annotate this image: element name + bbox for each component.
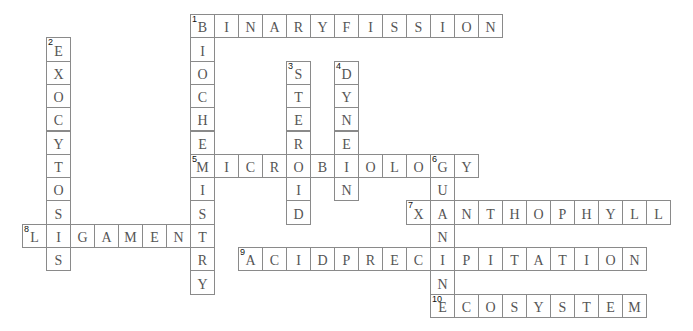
crossword-cell[interactable]: Y bbox=[526, 294, 551, 318]
crossword-cell[interactable]: I bbox=[430, 247, 455, 271]
crossword-cell[interactable]: Y bbox=[190, 270, 215, 294]
crossword-cell[interactable]: E10 bbox=[430, 294, 455, 318]
crossword-cell[interactable]: R bbox=[190, 247, 215, 271]
crossword-cell[interactable]: S bbox=[190, 200, 215, 224]
crossword-cell[interactable]: A9 bbox=[238, 247, 263, 271]
crossword-cell[interactable]: O bbox=[286, 154, 311, 178]
crossword-cell[interactable]: S bbox=[502, 294, 527, 318]
crossword-cell[interactable]: O bbox=[478, 294, 503, 318]
crossword-cell[interactable]: N bbox=[478, 14, 503, 38]
crossword-cell[interactable]: N bbox=[334, 107, 359, 131]
crossword-cell[interactable]: C bbox=[262, 247, 287, 271]
crossword-cell[interactable]: M5 bbox=[190, 154, 215, 178]
crossword-cell[interactable]: E bbox=[142, 224, 167, 248]
crossword-cell[interactable]: E bbox=[382, 247, 407, 271]
crossword-cell[interactable]: C bbox=[238, 154, 263, 178]
crossword-cell[interactable]: I bbox=[334, 154, 359, 178]
crossword-cell[interactable]: S bbox=[46, 200, 71, 224]
crossword-cell[interactable]: Y bbox=[334, 84, 359, 108]
crossword-cell[interactable]: D bbox=[310, 247, 335, 271]
crossword-cell[interactable]: I bbox=[190, 177, 215, 201]
crossword-cell[interactable]: S bbox=[550, 294, 575, 318]
crossword-cell[interactable]: S3 bbox=[286, 61, 311, 85]
crossword-cell[interactable]: I bbox=[286, 177, 311, 201]
crossword-cell[interactable]: L8 bbox=[22, 224, 47, 248]
crossword-cell[interactable]: C bbox=[454, 294, 479, 318]
crossword-cell[interactable]: O bbox=[406, 154, 431, 178]
crossword-cell[interactable]: R bbox=[262, 154, 287, 178]
crossword-cell[interactable]: T bbox=[478, 200, 503, 224]
crossword-cell[interactable]: X bbox=[46, 61, 71, 85]
crossword-cell[interactable]: C bbox=[190, 84, 215, 108]
crossword-cell[interactable]: S bbox=[46, 247, 71, 271]
crossword-cell[interactable]: Y bbox=[310, 14, 335, 38]
crossword-cell[interactable]: D bbox=[286, 200, 311, 224]
crossword-cell[interactable]: T bbox=[502, 247, 527, 271]
crossword-cell[interactable]: O bbox=[46, 177, 71, 201]
crossword-cell[interactable]: A bbox=[430, 200, 455, 224]
crossword-cell[interactable]: F bbox=[334, 14, 359, 38]
crossword-cell[interactable]: A bbox=[526, 247, 551, 271]
crossword-cell[interactable]: O bbox=[598, 247, 623, 271]
crossword-cell[interactable]: H bbox=[502, 200, 527, 224]
crossword-cell[interactable]: I bbox=[214, 14, 239, 38]
crossword-cell[interactable]: T bbox=[286, 84, 311, 108]
crossword-cell[interactable]: O bbox=[46, 84, 71, 108]
crossword-cell[interactable]: R bbox=[358, 247, 383, 271]
crossword-cell[interactable]: D4 bbox=[334, 61, 359, 85]
crossword-cell[interactable]: Y bbox=[454, 154, 479, 178]
crossword-cell[interactable]: I bbox=[478, 247, 503, 271]
crossword-cell[interactable]: I bbox=[190, 37, 215, 61]
crossword-cell[interactable]: G6 bbox=[430, 154, 455, 178]
crossword-cell[interactable]: N bbox=[454, 200, 479, 224]
crossword-cell[interactable]: T bbox=[574, 294, 599, 318]
crossword-cell[interactable]: I bbox=[214, 154, 239, 178]
crossword-cell[interactable]: O bbox=[526, 200, 551, 224]
crossword-cell[interactable]: N bbox=[238, 14, 263, 38]
crossword-cell[interactable]: I bbox=[286, 247, 311, 271]
crossword-cell[interactable]: E2 bbox=[46, 37, 71, 61]
crossword-cell[interactable]: T bbox=[46, 154, 71, 178]
crossword-cell[interactable]: P bbox=[550, 200, 575, 224]
crossword-cell[interactable]: H bbox=[190, 107, 215, 131]
crossword-cell[interactable]: L bbox=[382, 154, 407, 178]
crossword-cell[interactable]: L bbox=[622, 200, 647, 224]
crossword-cell[interactable]: T bbox=[550, 247, 575, 271]
crossword-cell[interactable]: S bbox=[406, 14, 431, 38]
crossword-cell[interactable]: H bbox=[574, 200, 599, 224]
crossword-cell[interactable]: C bbox=[406, 247, 431, 271]
crossword-cell[interactable]: M bbox=[622, 294, 647, 318]
crossword-cell[interactable]: R bbox=[286, 14, 311, 38]
crossword-cell[interactable]: B1 bbox=[190, 14, 215, 38]
crossword-cell[interactable]: E bbox=[334, 131, 359, 155]
crossword-cell[interactable]: N bbox=[334, 177, 359, 201]
crossword-cell[interactable]: T bbox=[190, 224, 215, 248]
crossword-cell[interactable]: N bbox=[430, 270, 455, 294]
crossword-cell[interactable]: X7 bbox=[406, 200, 431, 224]
crossword-cell[interactable]: A bbox=[262, 14, 287, 38]
crossword-cell[interactable]: N bbox=[622, 247, 647, 271]
crossword-cell[interactable]: L bbox=[646, 200, 671, 224]
crossword-cell[interactable]: I bbox=[574, 247, 599, 271]
crossword-cell[interactable]: Y bbox=[598, 200, 623, 224]
crossword-cell[interactable]: U bbox=[430, 177, 455, 201]
crossword-cell[interactable]: M bbox=[118, 224, 143, 248]
crossword-cell[interactable]: I bbox=[46, 224, 71, 248]
crossword-cell[interactable]: Y bbox=[46, 131, 71, 155]
crossword-cell[interactable]: G bbox=[70, 224, 95, 248]
crossword-cell[interactable]: O bbox=[358, 154, 383, 178]
crossword-cell[interactable]: I bbox=[358, 14, 383, 38]
crossword-cell[interactable]: P bbox=[334, 247, 359, 271]
crossword-cell[interactable]: I bbox=[430, 14, 455, 38]
crossword-cell[interactable]: S bbox=[382, 14, 407, 38]
crossword-cell[interactable]: C bbox=[46, 107, 71, 131]
crossword-cell[interactable]: E bbox=[286, 107, 311, 131]
crossword-cell[interactable]: N bbox=[166, 224, 191, 248]
crossword-cell[interactable]: R bbox=[286, 131, 311, 155]
crossword-cell[interactable]: B bbox=[310, 154, 335, 178]
crossword-cell[interactable]: A bbox=[94, 224, 119, 248]
crossword-cell[interactable]: N bbox=[430, 224, 455, 248]
crossword-cell[interactable]: E bbox=[598, 294, 623, 318]
crossword-cell[interactable]: P bbox=[454, 247, 479, 271]
crossword-cell[interactable]: O bbox=[454, 14, 479, 38]
